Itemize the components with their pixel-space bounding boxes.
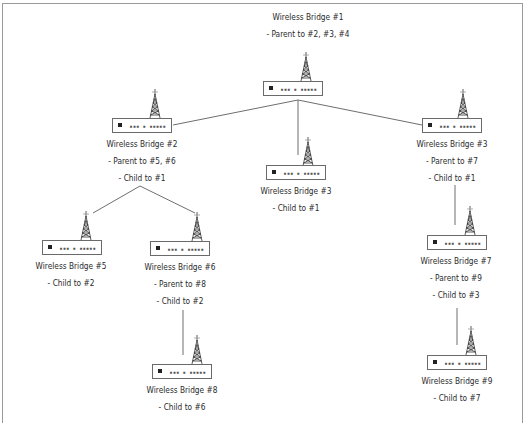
antenna-tower-icon <box>147 89 163 119</box>
bridge-device: ▪▪▪ ▪ ▪▪▪▪▪ <box>422 118 482 133</box>
antenna-tower-icon <box>298 52 314 82</box>
bridge-relation: - Parent to #8 <box>133 275 227 292</box>
bridge-device: ▪▪▪ ▪ ▪▪▪▪▪ <box>266 165 326 180</box>
port-lights: ▪▪▪ ▪ ▪▪▪▪▪ <box>130 122 166 130</box>
antenna-tower-icon <box>189 335 205 365</box>
port-lights: ▪▪▪ ▪ ▪▪▪▪▪ <box>170 368 206 376</box>
bridge-label: Wireless Bridge #8 - Child to #6 <box>135 381 229 415</box>
bridge-title: Wireless Bridge #9 <box>410 372 504 389</box>
antenna-tower-icon <box>463 326 479 356</box>
bridge-title: Wireless Bridge #8 <box>135 381 229 398</box>
bridge-device: ▪▪▪ ▪ ▪▪▪▪▪ <box>150 241 210 256</box>
bridge-title: Wireless Bridge #5 <box>24 257 118 274</box>
bridge-relation: - Child to #2 <box>24 274 118 291</box>
bridge-label: Wireless Bridge #1 - Parent to #2, #3, #… <box>261 8 355 42</box>
bridge-device: ▪▪▪ ▪ ▪▪▪▪▪ <box>42 240 102 255</box>
bridge-label: Wireless Bridge #2 - Parent to #5, #6 - … <box>95 135 189 186</box>
status-led <box>158 369 162 373</box>
bridge-relation: - Child to #1 <box>405 169 499 186</box>
bridge-label: Wireless Bridge #5 - Child to #2 <box>24 257 118 291</box>
antenna-tower-icon <box>455 89 471 119</box>
status-led <box>272 170 276 174</box>
bridge-device: ▪▪▪ ▪ ▪▪▪▪▪ <box>427 235 487 250</box>
bridge-relation: - Child to #1 <box>249 199 343 216</box>
link-b2-b6 <box>140 186 195 213</box>
port-lights: ▪▪▪ ▪ ▪▪▪▪▪ <box>445 239 481 247</box>
antenna-tower-icon <box>300 137 316 167</box>
bridge-label: Wireless Bridge #3 - Parent to #7 - Chil… <box>405 135 499 186</box>
bridge-title: Wireless Bridge #7 <box>409 252 503 269</box>
port-lights: ▪▪▪ ▪ ▪▪▪▪▪ <box>284 169 320 177</box>
status-led <box>269 86 273 90</box>
bridge-label: Wireless Bridge #6 - Parent to #8 - Chil… <box>133 258 227 309</box>
bridge-relation: - Parent to #7 <box>405 152 499 169</box>
status-led <box>433 360 437 364</box>
bridge-relation: - Parent to #9 <box>409 269 503 286</box>
antenna-tower-icon <box>462 206 478 236</box>
bridge-device: ▪▪▪ ▪ ▪▪▪▪▪ <box>152 364 212 379</box>
bridge-title: Wireless Bridge #6 <box>133 258 227 275</box>
status-led <box>48 245 52 249</box>
bridge-label: Wireless Bridge #3 - Child to #1 <box>249 182 343 216</box>
port-lights: ▪▪▪ ▪ ▪▪▪▪▪ <box>60 244 96 252</box>
bridge-device: ▪▪▪ ▪ ▪▪▪▪▪ <box>112 118 172 133</box>
bridge-label: Wireless Bridge #9 - Child to #7 <box>410 372 504 406</box>
bridge-title: Wireless Bridge #3 <box>405 135 499 152</box>
status-led <box>433 240 437 244</box>
bridge-title: Wireless Bridge #1 <box>261 8 355 25</box>
bridge-relation: - Child to #3 <box>409 286 503 303</box>
bridge-relation: - Parent to #5, #6 <box>95 152 189 169</box>
port-lights: ▪▪▪ ▪ ▪▪▪▪▪ <box>168 245 204 253</box>
link-b1-b3right <box>298 100 422 125</box>
port-lights: ▪▪▪ ▪ ▪▪▪▪▪ <box>440 122 476 130</box>
bridge-relation: - Child to #1 <box>95 169 189 186</box>
port-lights: ▪▪▪ ▪ ▪▪▪▪▪ <box>281 85 317 93</box>
bridge-relation: - Child to #7 <box>410 389 504 406</box>
status-led <box>156 246 160 250</box>
bridge-label: Wireless Bridge #7 - Parent to #9 - Chil… <box>409 252 503 303</box>
bridge-device: ▪▪▪ ▪ ▪▪▪▪▪ <box>427 355 487 370</box>
bridge-title: Wireless Bridge #2 <box>95 135 189 152</box>
link-b1-b2 <box>173 100 298 125</box>
bridge-relation: - Child to #2 <box>133 292 227 309</box>
bridge-device: ▪▪▪ ▪ ▪▪▪▪▪ <box>263 81 323 96</box>
status-led <box>118 123 122 127</box>
port-lights: ▪▪▪ ▪ ▪▪▪▪▪ <box>445 359 481 367</box>
bridge-relation: - Child to #6 <box>135 398 229 415</box>
bridge-relation: - Parent to #2, #3, #4 <box>261 25 355 42</box>
bridge-title: Wireless Bridge #3 <box>249 182 343 199</box>
antenna-tower-icon <box>189 212 205 242</box>
antenna-tower-icon <box>78 211 94 241</box>
link-b2-b5 <box>93 186 140 213</box>
status-led <box>428 123 432 127</box>
